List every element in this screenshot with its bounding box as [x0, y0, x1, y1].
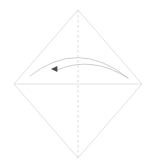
origami-diagram-canvas [0, 0, 155, 168]
fold-arrow-outer-curve [30, 57, 128, 78]
fold-arrow-head-icon [51, 66, 57, 72]
fold-arrow-inner-curve [57, 64, 128, 78]
diagram-svg [0, 0, 155, 168]
